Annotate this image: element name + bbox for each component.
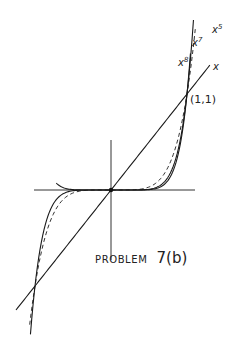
curve-x8 [56,53,190,190]
curve-x [16,65,210,310]
graph-diagram: xx5x7x8 (1,1) [0,0,235,343]
point-label-1-1: (1,1) [190,93,216,106]
caption-word: PROBLEM [95,254,147,265]
curve-labels: xx5x7x8 [177,23,223,72]
curve-x7 [30,20,193,334]
label-x: x [212,61,219,72]
axes [34,140,195,260]
origin-point [109,188,113,192]
label-x8: x8 [177,56,189,68]
caption-number: 7(b) [157,249,188,267]
label-x5: x5 [211,23,223,35]
problem-caption: PROBLEM 7(b) [95,248,187,267]
label-x7: x7 [191,36,203,48]
